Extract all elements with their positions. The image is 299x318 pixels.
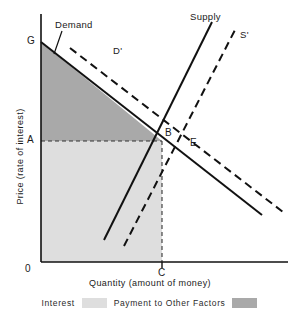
point-label-a: A — [27, 135, 34, 145]
chart-legend: Interest Payment to Other Factors — [0, 294, 299, 312]
y-axis-title: Price (rate of interest) — [16, 97, 25, 217]
point-label-b: B — [165, 128, 172, 138]
point-label-c: C — [158, 268, 166, 278]
legend-swatch-interest — [82, 298, 107, 308]
legend-label-interest: Interest — [42, 298, 75, 308]
origin-label: 0 — [25, 264, 31, 274]
curve-label-supply-prime: S' — [240, 30, 249, 40]
point-label-e: E — [190, 138, 197, 148]
curve-label-demand: Demand — [55, 20, 93, 30]
curve-label-supply: Supply — [190, 12, 221, 22]
legend-swatch-payment — [232, 298, 257, 308]
supply-demand-figure: G A B C E 0 Demand D' Supply S' Price (r… — [0, 0, 299, 318]
x-axis-title: Quantity (amount of money) — [40, 279, 260, 288]
chart-canvas — [0, 0, 299, 318]
point-label-g: G — [27, 36, 35, 46]
curve-label-demand-prime: D' — [113, 46, 122, 56]
demand-leader-line — [54, 31, 62, 54]
legend-label-payment: Payment to Other Factors — [114, 298, 226, 308]
